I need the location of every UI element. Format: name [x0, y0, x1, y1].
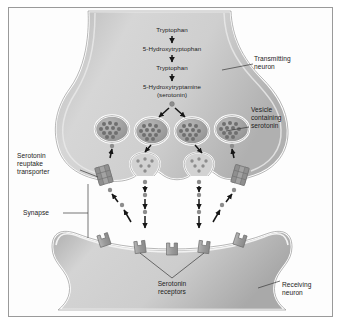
- pathway-step-serotonin: 5-Hydroxytryptamine (serotonin): [131, 83, 213, 98]
- serotonin-dot: [230, 144, 234, 148]
- label-transmitting-neuron: Transmitting neuron: [254, 55, 291, 71]
- vesicle: [215, 116, 249, 143]
- cleft-serotonin-dots: [108, 180, 236, 214]
- label-vesicle: Vesicle containing serotonin: [251, 106, 282, 131]
- pathway-step-5-hydroxytryptophan: 5-Hydroxytryptophan: [132, 45, 212, 53]
- vesicle: [175, 118, 209, 145]
- pathway-step-tryptophan-1: Tryptophan: [140, 26, 204, 34]
- serotonin-molecule: [170, 102, 175, 107]
- label-serotonin-receptors: Serotonin receptors: [142, 280, 202, 296]
- label-synapse: Synapse: [23, 209, 49, 217]
- receiving-neuron: [52, 231, 292, 310]
- serotonin-receptor: [134, 240, 146, 253]
- label-receiving-neuron: Receiving neuron: [282, 281, 311, 297]
- pathway-step-tryptophan-2: Tryptophan: [140, 64, 204, 72]
- serotonin-receptor: [198, 240, 210, 253]
- reuptake-path-arrows: [112, 194, 232, 222]
- vesicle: [135, 118, 169, 145]
- serotonin-dot: [110, 144, 114, 148]
- diffusion-arrows: [145, 186, 199, 228]
- label-reuptake-transporter: Serotonin reuptake transporter: [17, 152, 49, 177]
- vesicle: [95, 116, 129, 143]
- figure-canvas: Tryptophan 5-Hydroxytryptophan Tryptopha…: [0, 0, 343, 328]
- serotonin-receptor: [167, 243, 178, 255]
